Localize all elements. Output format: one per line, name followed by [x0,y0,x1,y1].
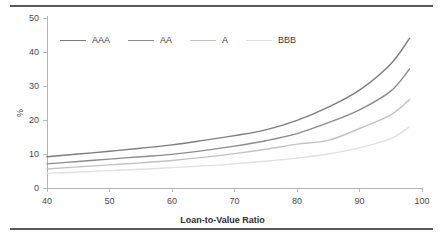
series-line-aaa [47,38,410,156]
x-tick-label: 100 [414,196,429,206]
legend-line-icon [246,40,272,41]
y-axis-ticks: 01020304050 [29,13,47,193]
y-tick-label: 30 [29,81,39,91]
y-tick-label: 10 [29,149,39,159]
y-tick-label: 20 [29,115,39,125]
legend-line-icon [60,40,86,41]
x-axis-title: Loan-to-Value Ratio [0,215,445,225]
legend-label: A [222,36,228,45]
x-tick-label: 40 [42,196,52,206]
plot-area: 01020304050 405060708090100 Loan-to-Valu… [0,10,445,225]
y-tick-label: 40 [29,47,39,57]
y-tick-label: 0 [34,183,39,193]
series-line-a [47,100,410,169]
top-horizontal-rule [10,5,433,7]
legend-item-aaa[interactable]: AAA [60,36,110,45]
series-line-aa [47,69,410,164]
legend-label: BBB [278,36,296,45]
legend-label: AAA [92,36,110,45]
legend-line-icon [128,40,154,41]
x-axis-ticks: 405060708090100 [42,188,430,206]
x-tick-label: 90 [354,196,364,206]
y-tick-label: 50 [29,13,39,23]
bottom-horizontal-rule [10,228,433,230]
legend-label: AA [160,36,172,45]
chart-legend: AAAAAABBB [60,36,314,45]
x-tick-label: 50 [104,196,114,206]
legend-item-bbb[interactable]: BBB [246,36,296,45]
x-tick-label: 60 [167,196,177,206]
x-tick-label: 80 [292,196,302,206]
y-axis-title: % [15,101,25,125]
legend-line-icon [190,40,216,41]
x-tick-label: 70 [229,196,239,206]
series-lines [47,38,410,173]
figure-container: 01020304050 405060708090100 Loan-to-Valu… [0,0,445,241]
legend-item-a[interactable]: A [190,36,228,45]
series-line-bbb [47,127,410,174]
legend-item-aa[interactable]: AA [128,36,172,45]
